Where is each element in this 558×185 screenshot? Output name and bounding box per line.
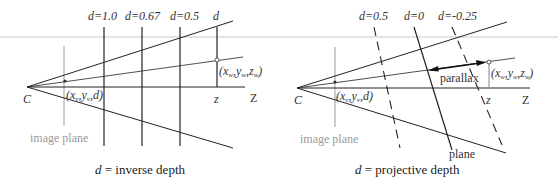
depth-label-0-5: d=0.5 [359,9,388,23]
depth-label-2: d=0.67 [125,9,161,23]
parallax-arrow-head-right [476,60,486,66]
camera-label: C [294,93,303,107]
middle-ray [27,57,243,87]
image-point-label: (xv,yv,d) [66,88,103,103]
world-point-marker [487,60,491,64]
image-point-label: (xv,yv,d) [336,89,373,104]
right-caption: d = projective depth [355,162,460,177]
image-plane-label: image plane [30,131,88,145]
world-point-label: (xw,yw,zw) [219,64,262,79]
left-diagram: d=1.0 d=0.67 d=0.5 d C Z z (xv,yv,d) (xw… [23,9,262,177]
upper-ray [27,21,233,87]
diagram-canvas: d=1.0 d=0.67 d=0.5 d C Z z (xv,yv,d) (xw… [0,0,558,185]
z-label: z [485,93,491,107]
image-point-marker [63,79,66,82]
image-plane-label: image plane [300,132,358,146]
world-point-label: (xw,yw,zw) [491,66,533,80]
depth-label-d: d [213,9,220,23]
z-label: z [213,92,219,106]
depth-label-1: d=1.0 [88,9,117,23]
parallax-arrow-line [431,63,484,71]
depth-line-neg-0-25 [452,27,502,145]
world-point-marker [215,58,219,62]
right-diagram: d=0.5 d=0 d=-0.25 C Z z parallax (xv,yv,… [294,9,533,177]
left-caption: d = inverse depth [95,162,186,177]
axis-label: Z [250,91,257,105]
parallax-arrow-head-left [428,66,439,72]
depth-label-3: d=0.5 [170,9,199,23]
plane-label: plane [449,147,475,161]
axis-label: Z [522,93,529,107]
depth-label-0: d=0 [404,9,424,23]
image-point-marker [333,80,336,83]
camera-label: C [23,92,32,106]
parallax-label: parallax [440,71,479,85]
depth-label-neg-0-25: d=-0.25 [438,9,477,23]
